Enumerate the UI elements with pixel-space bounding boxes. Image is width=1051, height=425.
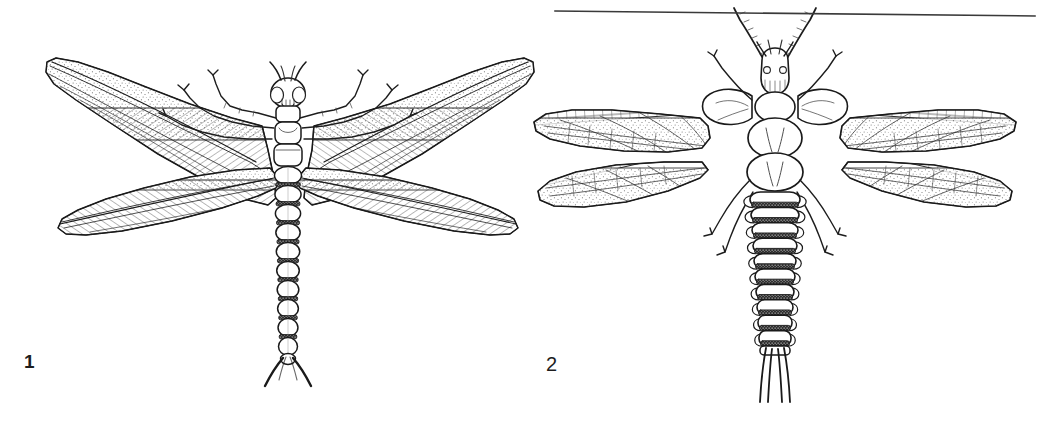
figure-2-label: 2 xyxy=(546,354,557,374)
figure-1-label: 1 xyxy=(24,352,35,371)
figure-plate: 1 2 xyxy=(0,0,1051,425)
top-horizontal-rule xyxy=(555,11,1035,16)
top-rule-svg xyxy=(0,0,1051,425)
